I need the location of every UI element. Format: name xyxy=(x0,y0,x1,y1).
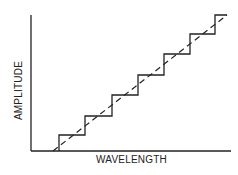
y-axis-label: AMPLITUDE xyxy=(13,51,24,131)
x-axis-label: WAVELENGTH xyxy=(96,154,167,165)
chart xyxy=(0,0,238,175)
staircase-line xyxy=(59,15,227,151)
axes xyxy=(31,15,231,151)
dashed-linear-line xyxy=(53,15,227,151)
